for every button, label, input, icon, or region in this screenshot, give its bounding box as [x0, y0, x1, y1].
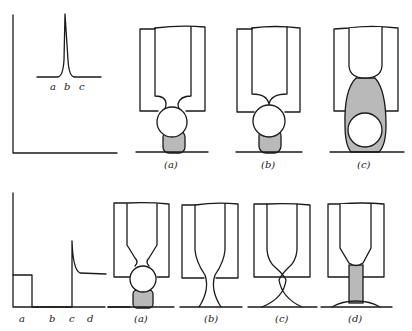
top-a-electrode-outer: [140, 26, 205, 111]
bottom-graph-waveform: [13, 241, 106, 307]
bottom-b-electrode-outer: [182, 203, 238, 278]
top-a-droplet: [157, 107, 187, 137]
top-c-capillary: [349, 27, 382, 78]
top-panel-c: (c): [330, 27, 404, 171]
top-graph: a b c: [13, 14, 117, 153]
top-graph-label-c: c: [79, 81, 85, 92]
bottom-graph-label-a: a: [19, 313, 25, 324]
bottom-graph-axes: [13, 193, 105, 307]
bottom-a-deposit: [133, 290, 153, 308]
bottom-d-molten-column: [349, 265, 363, 303]
bottom-a-capillary: [127, 204, 157, 266]
top-graph-label-a: a: [50, 81, 56, 92]
bottom-graph-label-c: c: [69, 313, 75, 324]
bottom-b-neck: [195, 204, 225, 307]
bottom-panel-c: (c): [248, 204, 317, 324]
top-c-label: (c): [357, 159, 371, 170]
top-a-capillary: [155, 27, 191, 113]
figure-canvas: a b c (a) (b) (c) a b c d: [0, 0, 412, 331]
bottom-d-capillary: [340, 204, 371, 266]
top-a-label: (a): [164, 159, 178, 170]
top-b-capillary: [252, 27, 287, 106]
bottom-panel-b: (b): [180, 203, 242, 324]
bottom-c-label: (c): [275, 313, 289, 324]
top-graph-label-b: b: [64, 81, 70, 92]
bottom-d-label: (d): [348, 313, 362, 324]
bottom-b-label: (b): [204, 313, 218, 324]
bottom-panel-a: (a): [108, 203, 174, 324]
top-panel-a: (a): [136, 26, 208, 170]
bottom-graph: a b c d: [13, 193, 130, 324]
top-b-electrode-outer: [237, 27, 300, 113]
top-panel-b: (b): [236, 27, 302, 171]
bottom-a-label: (a): [134, 313, 148, 324]
top-graph-peak-curve: [37, 14, 101, 77]
bottom-panel-d: (d): [321, 203, 392, 324]
bottom-a-droplet: [130, 266, 156, 292]
top-c-droplet: [348, 113, 382, 147]
bottom-c-necking-filaments: [262, 204, 302, 307]
bottom-graph-label-b: b: [49, 313, 55, 324]
top-b-droplet: [253, 105, 285, 137]
bottom-graph-label-d: d: [87, 313, 93, 324]
bottom-c-electrode-outer: [254, 204, 310, 277]
top-b-label: (b): [261, 159, 275, 170]
